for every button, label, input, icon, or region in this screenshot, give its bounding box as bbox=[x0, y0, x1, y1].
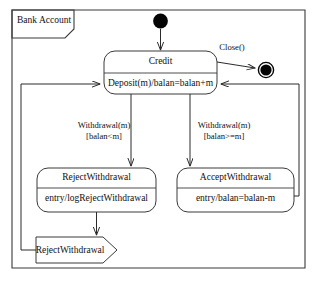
state-diagram-canvas: Bank Account Credit Deposit(m)/balan=bal… bbox=[0, 0, 317, 286]
transition-label-close: Close() bbox=[219, 42, 244, 52]
transition-label-reject-guard: [balan<m] bbox=[86, 131, 122, 141]
transition-label-accept-guard: [balan>=m] bbox=[204, 131, 245, 141]
diagram-svg: Bank Account Credit Deposit(m)/balan=bal… bbox=[0, 0, 317, 286]
final-state bbox=[258, 62, 273, 77]
state-accept-body: entry/balan=balan-m bbox=[196, 193, 276, 203]
signal-reject-withdrawal: RejectWithdrawal bbox=[36, 237, 117, 263]
state-accept-title: AcceptWithdrawal bbox=[200, 172, 272, 182]
state-credit: Credit Deposit(m)/balan=balan+m bbox=[104, 51, 217, 94]
state-reject-title: RejectWithdrawal bbox=[62, 172, 131, 182]
state-reject-withdrawal: RejectWithdrawal entry/logRejectWithdraw… bbox=[37, 168, 156, 212]
transition-label-accept-event: Withdrawal(m) bbox=[198, 120, 251, 130]
state-accept-withdrawal: AcceptWithdrawal entry/balan=balan-m bbox=[177, 168, 294, 212]
edge-signal-to-credit bbox=[21, 84, 100, 250]
signal-label: RejectWithdrawal bbox=[36, 245, 105, 255]
initial-state bbox=[153, 14, 168, 29]
state-credit-title: Credit bbox=[149, 56, 173, 66]
diagram-frame: Bank Account bbox=[12, 10, 305, 268]
frame-label: Bank Account bbox=[17, 15, 71, 25]
state-credit-body: Deposit(m)/balan=balan+m bbox=[108, 78, 214, 89]
edge-credit-to-final bbox=[217, 62, 255, 68]
transition-label-reject-event: Withdrawal(m) bbox=[78, 120, 131, 130]
state-reject-body: entry/logRejectWithdrawal bbox=[45, 193, 148, 203]
